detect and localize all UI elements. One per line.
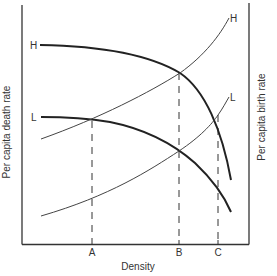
birth-rate-l-curve bbox=[41, 97, 229, 216]
birth-l-label: L bbox=[230, 92, 236, 103]
y-right-axis-title: Per capita birth rate bbox=[256, 73, 267, 161]
y-left-axis-title: Per capita death rate bbox=[1, 85, 12, 178]
density-rate-diagram: H L H L A B C Density Per capita death r… bbox=[0, 0, 277, 276]
tick-label-a: A bbox=[89, 247, 96, 258]
death-rate-l-curve bbox=[41, 117, 231, 212]
death-rate-h-curve bbox=[40, 45, 231, 180]
birth-rate-h-curve bbox=[41, 18, 229, 139]
death-l-label: L bbox=[31, 112, 37, 123]
birth-h-label: H bbox=[230, 13, 237, 24]
tick-label-c: C bbox=[214, 247, 221, 258]
tick-label-b: B bbox=[176, 247, 183, 258]
death-h-label: H bbox=[30, 40, 37, 51]
x-axis-title: Density bbox=[121, 261, 154, 272]
